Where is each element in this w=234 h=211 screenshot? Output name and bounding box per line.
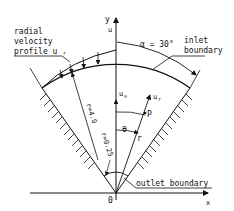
p-arc <box>116 112 145 115</box>
label-alpha: α = 30° <box>140 40 174 49</box>
point-p-marker <box>144 112 147 115</box>
label-u-infinity-sub: ∞ <box>124 93 127 99</box>
label-origin: 0 <box>108 196 113 205</box>
label-inlet: inlet <box>184 36 208 45</box>
label-outlet: outlet boundary <box>136 179 208 188</box>
label-x-axis: x <box>206 199 210 207</box>
label-u-infinity: u <box>119 90 123 98</box>
label-profile-sub: r <box>63 50 66 56</box>
label-velocity: velocity <box>14 37 53 46</box>
label-u-r-sub: r <box>158 96 161 102</box>
wedge-flow-diagram: radial velocity profile u r α = 30° inle… <box>0 0 234 211</box>
label-u-axis: u <box>108 26 112 34</box>
right-wall <box>116 70 200 193</box>
label-y-axis: y <box>105 15 110 24</box>
theta-arc <box>116 130 138 133</box>
label-point-p: P <box>147 110 152 119</box>
label-u-r: u <box>153 93 157 101</box>
label-r-symbol: r <box>137 134 142 143</box>
label-boundary: boundary <box>184 46 223 55</box>
label-r-inner: r=0.25 <box>99 131 114 158</box>
label-theta: θ <box>122 125 127 134</box>
label-radial: radial <box>14 27 43 36</box>
label-profile: profile u <box>14 47 58 56</box>
profile-leader <box>14 56 70 62</box>
